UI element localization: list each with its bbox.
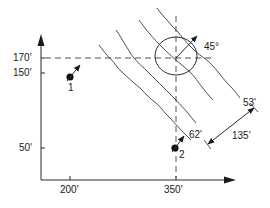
y-axis: [38, 34, 46, 180]
point-2-label: 2: [179, 150, 185, 160]
point-1-label: 1: [68, 83, 74, 93]
y-tick-label: 150': [13, 68, 32, 78]
point-1: [66, 65, 80, 81]
offset-label: 53': [243, 98, 256, 108]
x-axis-arrow-icon: [224, 177, 236, 184]
dashed-guides: [45, 16, 215, 178]
diagram-canvas: [0, 0, 270, 208]
y-tick-label: 50': [19, 143, 32, 153]
x-tick-label: 200': [60, 185, 79, 195]
angle-label: 45°: [204, 42, 219, 52]
point-2-distance-label: 62': [189, 130, 202, 140]
y-axis-arrow-icon: [38, 34, 45, 46]
width-dimension: [204, 103, 258, 149]
y-tick-label: 170': [13, 53, 32, 63]
width-label: 135': [232, 131, 251, 141]
x-axis: [41, 176, 236, 184]
x-tick-label: 350': [164, 185, 183, 195]
